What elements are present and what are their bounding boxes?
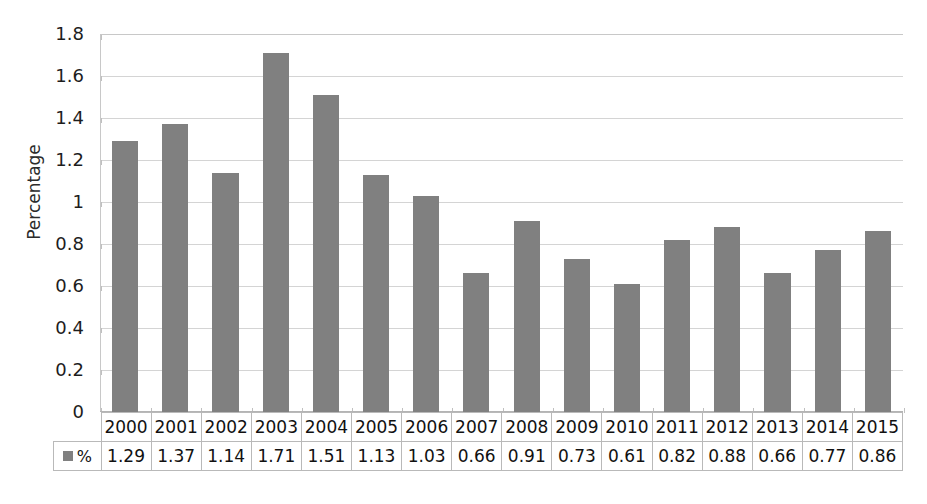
bar-2007[interactable] — [463, 273, 489, 412]
y-tick-label-0-2: 0.2 — [55, 361, 84, 379]
bar-2000[interactable] — [112, 141, 138, 412]
table-corner-cell — [54, 413, 102, 442]
table-header-2004: 2004 — [301, 413, 351, 442]
y-tick-label-1-6: 1.6 — [55, 67, 84, 85]
bar-series-percentage — [100, 34, 903, 412]
bar-slot-2011 — [652, 34, 702, 412]
table-value-2006: 1.03 — [402, 442, 452, 471]
table-header-2006: 2006 — [402, 413, 452, 442]
bar-2014[interactable] — [815, 250, 841, 412]
bar-slot-2009 — [552, 34, 602, 412]
y-tick-label-1-2: 1.2 — [55, 151, 84, 169]
legend-cell: % — [54, 442, 102, 471]
table-header-2015: 2015 — [852, 413, 902, 442]
bar-2015[interactable] — [865, 231, 891, 412]
table-value-2003: 1.71 — [251, 442, 301, 471]
bar-slot-2010 — [602, 34, 652, 412]
bar-slot-2004 — [301, 34, 351, 412]
table-row-values: % 1.291.371.141.711.511.131.030.660.910.… — [54, 442, 903, 471]
table-header-2008: 2008 — [502, 413, 552, 442]
table-header-2001: 2001 — [151, 413, 201, 442]
table-value-2001: 1.37 — [151, 442, 201, 471]
x-tickmark — [904, 408, 905, 413]
table-header-2005: 2005 — [351, 413, 401, 442]
table-value-2012: 0.88 — [702, 442, 752, 471]
table-row-years: 2000200120022003200420052006200720082009… — [54, 413, 903, 442]
y-tick-label-1: 1 — [73, 193, 84, 211]
table-value-2014: 0.77 — [802, 442, 852, 471]
bar-slot-2001 — [150, 34, 200, 412]
bar-2008[interactable] — [514, 221, 540, 412]
table-header-2012: 2012 — [702, 413, 752, 442]
bar-2002[interactable] — [212, 173, 238, 412]
bar-slot-2013 — [752, 34, 802, 412]
bar-2004[interactable] — [313, 95, 339, 412]
bar-slot-2003 — [251, 34, 301, 412]
bar-2005[interactable] — [363, 175, 389, 412]
bar-slot-2008 — [502, 34, 552, 412]
bar-slot-2000 — [100, 34, 150, 412]
bar-2012[interactable] — [714, 227, 740, 412]
bar-slot-2006 — [401, 34, 451, 412]
y-axis-tick-labels: 1.81.61.41.210.80.60.40.20 — [36, 34, 92, 412]
bar-2011[interactable] — [664, 240, 690, 412]
table-header-2011: 2011 — [652, 413, 702, 442]
table-header-2003: 2003 — [251, 413, 301, 442]
bar-2006[interactable] — [413, 196, 439, 412]
y-tick-label-0-4: 0.4 — [55, 319, 84, 337]
bar-slot-2002 — [200, 34, 250, 412]
legend-series-label: % — [77, 447, 92, 466]
y-tick-label-0-8: 0.8 — [55, 235, 84, 253]
table-value-2005: 1.13 — [351, 442, 401, 471]
table-value-2013: 0.66 — [752, 442, 802, 471]
table-value-2004: 1.51 — [301, 442, 351, 471]
table-value-2011: 0.82 — [652, 442, 702, 471]
bar-2010[interactable] — [614, 284, 640, 412]
table-value-2002: 1.14 — [201, 442, 251, 471]
bar-slot-2005 — [351, 34, 401, 412]
table-header-2007: 2007 — [452, 413, 502, 442]
bar-2009[interactable] — [564, 259, 590, 412]
y-tick-label-0-6: 0.6 — [55, 277, 84, 295]
table-value-2008: 0.91 — [502, 442, 552, 471]
legend-swatch-icon — [63, 451, 73, 461]
table-header-2002: 2002 — [201, 413, 251, 442]
table-header-2000: 2000 — [101, 413, 151, 442]
table-header-2013: 2013 — [752, 413, 802, 442]
y-tick-label-1-8: 1.8 — [55, 25, 84, 43]
y-tick-label-1-4: 1.4 — [55, 109, 84, 127]
table-value-2010: 0.61 — [602, 442, 652, 471]
table-value-2007: 0.66 — [452, 442, 502, 471]
bar-2001[interactable] — [162, 124, 188, 412]
bar-slot-2007 — [451, 34, 501, 412]
table-header-2010: 2010 — [602, 413, 652, 442]
bar-2013[interactable] — [764, 273, 790, 412]
table-value-2000: 1.29 — [101, 442, 151, 471]
bar-slot-2014 — [803, 34, 853, 412]
bar-slot-2012 — [702, 34, 752, 412]
table-header-2009: 2009 — [552, 413, 602, 442]
bar-2003[interactable] — [263, 53, 289, 412]
bar-chart: Percentage 1.81.61.41.210.80.60.40.20 20… — [0, 0, 927, 504]
data-table: 2000200120022003200420052006200720082009… — [53, 412, 903, 471]
table-value-2009: 0.73 — [552, 442, 602, 471]
bar-slot-2015 — [853, 34, 903, 412]
table-header-2014: 2014 — [802, 413, 852, 442]
table-value-2015: 0.86 — [852, 442, 902, 471]
